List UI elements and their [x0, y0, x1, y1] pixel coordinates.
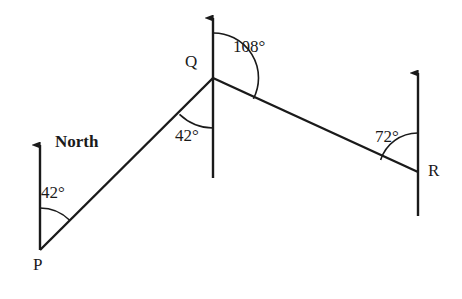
vertex-label-p: P	[33, 256, 42, 273]
segment-QR	[213, 78, 418, 172]
angle-label-q-north: 108°	[233, 38, 265, 55]
angle-arc-p	[40, 208, 70, 220]
angle-label-r: 72°	[375, 128, 399, 145]
angle-label-q-west: 42°	[175, 127, 199, 144]
vertex-label-r: R	[428, 162, 439, 179]
angle-label-p: 42°	[41, 184, 65, 201]
geometry-diagram: P Q R North 42° 42° 108° 72°	[0, 0, 462, 299]
segment-PQ	[40, 78, 213, 250]
vertex-label-q: Q	[185, 53, 197, 70]
north-label: North	[55, 133, 98, 150]
